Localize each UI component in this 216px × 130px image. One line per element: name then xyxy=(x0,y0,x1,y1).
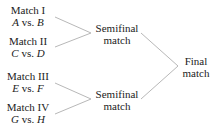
team-g: G xyxy=(11,113,19,125)
vs-label: vs. xyxy=(21,47,34,59)
connector-match4-semi2 xyxy=(55,99,91,114)
match-title: Match II xyxy=(2,35,54,47)
final-label-2: match xyxy=(178,67,214,79)
connector-match1-semi1 xyxy=(55,17,91,33)
connector-semi2-final xyxy=(141,66,178,99)
vs-label: vs. xyxy=(22,113,35,125)
final-label: Final xyxy=(178,55,214,67)
team-h: H xyxy=(37,113,45,125)
final-match: Final match xyxy=(178,55,214,79)
semifinal-label-2: match xyxy=(92,100,142,112)
team-e: E xyxy=(12,82,19,94)
match-2: Match II C vs. D xyxy=(2,35,54,59)
vs-label: vs. xyxy=(22,16,35,28)
match-4: Match IV G vs. H xyxy=(2,101,54,125)
semifinal-label: Semifinal xyxy=(92,88,142,100)
semifinal-label: Semifinal xyxy=(92,22,142,34)
match-title: Match III xyxy=(2,70,54,82)
vs-label: vs. xyxy=(22,82,35,94)
team-d: D xyxy=(37,47,45,59)
team-f: F xyxy=(37,82,44,94)
semifinal-1: Semifinal match xyxy=(92,22,142,46)
connector-match3-semi2 xyxy=(55,83,91,99)
team-c: C xyxy=(11,47,18,59)
match-title: Match I xyxy=(2,4,54,16)
match-title: Match IV xyxy=(2,101,54,113)
team-a: A xyxy=(12,16,19,28)
semifinal-2: Semifinal match xyxy=(92,88,142,112)
connector-match2-semi1 xyxy=(55,33,91,47)
team-b: B xyxy=(37,16,44,28)
connector-semi1-final xyxy=(141,33,178,66)
semifinal-label-2: match xyxy=(92,34,142,46)
match-3: Match III E vs. F xyxy=(2,70,54,94)
match-1: Match I A vs. B xyxy=(2,4,54,28)
